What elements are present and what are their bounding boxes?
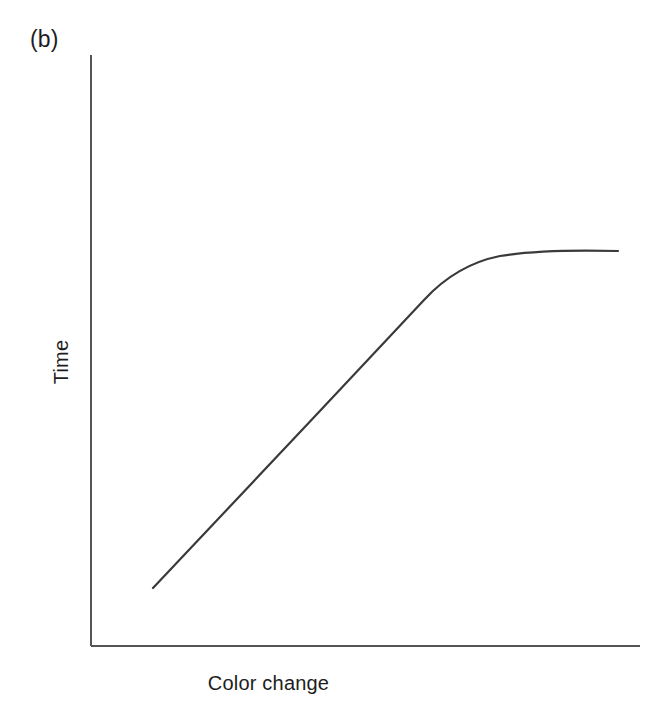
x-axis-label: Color change <box>0 671 653 695</box>
figure-panel-b: (b) Time Color change <box>0 0 653 713</box>
plot-canvas <box>0 0 653 713</box>
data-curve <box>153 251 618 588</box>
